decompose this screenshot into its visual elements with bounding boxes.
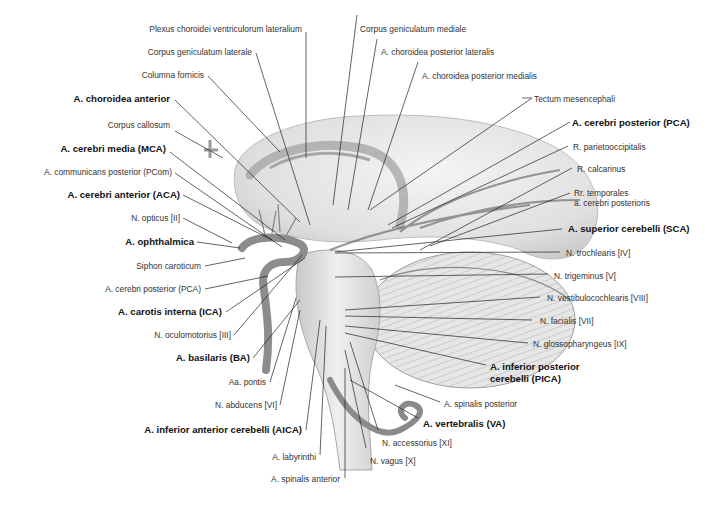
label-pica-line1: A. inferior posterior	[490, 361, 580, 372]
label-pcom: A. communicans posterior (PCom)	[10, 167, 172, 177]
label-tectum-mesencephali: Tectum mesencephali	[534, 94, 615, 104]
label-n-accessorius: N. accessorius [XI]	[382, 438, 452, 448]
label-n-vagus: N. vagus [X]	[370, 456, 416, 466]
label-a-ophthalmica: A. ophthalmica	[60, 236, 194, 247]
label-rr-temporales-line2: a. cerebri posterioris	[574, 198, 650, 208]
label-n-abducens: N. abducens [VI]	[160, 400, 277, 410]
label-n-glossopharyngeus: N. glossopharyngeus [IX]	[533, 339, 627, 349]
label-n-trigeminus: N. trigeminus [V]	[554, 271, 616, 281]
label-aa-pontis: Aa. pontis	[160, 377, 266, 387]
label-pca-right: A. cerebri posterior (PCA)	[572, 117, 690, 128]
brain-arteries-figure: Plexus choroidei ventriculorum lateraliu…	[0, 0, 723, 508]
label-a-choroidea-anterior: A. choroidea anterior	[20, 93, 170, 104]
label-mca: A. cerebri media (MCA)	[10, 143, 166, 154]
label-plexus-choroidei: Plexus choroidei ventriculorum lateraliu…	[140, 24, 302, 34]
label-pica-line2: cerebelli (PICA)	[490, 373, 561, 384]
label-a-labyrinthi: A. labyrinthi	[240, 452, 316, 462]
label-n-facialis: N. facialis [VII]	[540, 316, 594, 326]
label-corpus-callosum: Corpus callosum	[20, 120, 170, 130]
label-rr-temporales: Rr. temporales	[574, 188, 628, 198]
label-n-opticus: N. opticus [II]	[60, 213, 180, 223]
label-va: A. vertebralis (VA)	[423, 418, 505, 429]
label-a-choroidea-posterior-lateralis: A. choroidea posterior lateralis	[381, 47, 494, 57]
label-a-spinalis-anterior: A. spinalis anterior	[240, 474, 340, 484]
label-corpus-geniculatum-laterale: Corpus geniculatum laterale	[100, 47, 252, 57]
label-a-spinalis-posterior: A. spinalis posterior	[444, 399, 517, 409]
label-sca: A. superior cerebelli (SCA)	[568, 223, 690, 234]
label-pca-left: A. cerebri posterior (PCA)	[60, 284, 201, 294]
label-n-trochlearis: N. trochlearis [IV]	[566, 248, 630, 258]
label-r-calcarinus: R. calcarinus	[577, 164, 625, 174]
label-r-parietooccipitalis: R. parietooccipitalis	[573, 142, 646, 152]
label-aca: A. cerebri anterior (ACA)	[10, 189, 180, 200]
label-siphon-caroticum: Siphon caroticum	[60, 261, 201, 271]
label-aica: A. inferior anterior cerebelli (AICA)	[100, 424, 302, 435]
label-a-choroidea-posterior-medialis: A. choroidea posterior medialis	[422, 71, 537, 81]
label-n-vestibulocochlearis: N. vestibulocochlearis [VIII]	[547, 293, 648, 303]
label-n-oculomotorius: N. oculomotorius [III]	[100, 330, 231, 340]
label-columna-fornicis: Columna fornicis	[100, 70, 204, 80]
label-ba: A. basilaris (BA)	[100, 352, 250, 363]
label-corpus-geniculatum-mediale: Corpus geniculatum mediale	[360, 24, 466, 34]
label-ica: A. carotis interna (ICA)	[60, 306, 222, 317]
